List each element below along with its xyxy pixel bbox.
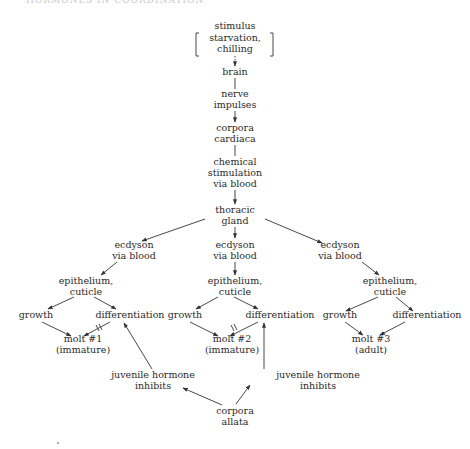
svg-text:ecdyson: ecdyson [114, 239, 153, 250]
svg-text:via blood: via blood [317, 250, 362, 261]
svg-text:molt #3: molt #3 [352, 333, 391, 344]
node-thoracic-gland: thoracic gland [215, 204, 255, 226]
svg-text:growth: growth [168, 309, 202, 320]
node-brain: brain [222, 66, 247, 77]
stray-mark [57, 442, 59, 444]
node-juvenile-hormone-right: juvenile hormone inhibits [275, 369, 360, 391]
svg-text:epithelium,: epithelium, [59, 275, 114, 286]
node-corpora-cardiaca: corpora cardiaca [214, 122, 256, 144]
svg-text:allata: allata [222, 416, 249, 427]
svg-text:via blood: via blood [212, 250, 257, 261]
svg-text:corpora: corpora [216, 122, 254, 133]
svg-text:cardiaca: cardiaca [214, 133, 256, 144]
node-chemical-stimulation: chemical stimulation via blood [208, 156, 262, 189]
arrow-juvenile-left-differentiation [124, 323, 152, 369]
svg-text:chilling: chilling [217, 43, 253, 54]
svg-text:juvenile hormone: juvenile hormone [275, 369, 360, 380]
svg-text:ecdyson: ecdyson [215, 239, 254, 250]
bracket-right [270, 33, 273, 56]
arrow-allata-juvenile-left [183, 388, 222, 405]
svg-text:cuticle: cuticle [374, 286, 407, 297]
svg-text:nerve: nerve [221, 88, 249, 99]
svg-text:differentiation: differentiation [96, 309, 165, 320]
svg-text:gland: gland [222, 215, 249, 226]
svg-text:growth: growth [19, 309, 53, 320]
svg-text:ecdyson: ecdyson [320, 239, 359, 250]
svg-text:corpora: corpora [216, 405, 254, 416]
svg-text:inhibits: inhibits [300, 380, 336, 391]
svg-text:chemical: chemical [213, 156, 256, 167]
svg-text:cuticle: cuticle [70, 286, 103, 297]
svg-text:differentiation: differentiation [246, 309, 315, 320]
svg-text:epithelium,: epithelium, [363, 275, 418, 286]
svg-text:(adult): (adult) [355, 344, 387, 355]
branch-molt-1: ecdyson via blood epithelium, cuticle gr… [19, 239, 165, 355]
node-corpora-allata: corpora allata [216, 405, 254, 427]
svg-text:impulses: impulses [214, 99, 257, 110]
arrow-allata-juvenile-right [236, 385, 250, 404]
svg-text:starvation,: starvation, [209, 32, 261, 43]
node-stimulus: stimulus starvation, chilling [196, 20, 273, 56]
node-juvenile-hormone-left: juvenile hormone inhibits [110, 369, 195, 391]
svg-text:growth: growth [323, 309, 357, 320]
molting-control-diagram: stimulus starvation, chilling brain nerv… [0, 0, 470, 449]
svg-text:(immature): (immature) [205, 344, 259, 355]
svg-text:juvenile hormone: juvenile hormone [110, 369, 195, 380]
svg-text:stimulation: stimulation [208, 167, 262, 178]
svg-text:molt #1: molt #1 [64, 333, 103, 344]
node-nerve-impulses: nerve impulses [214, 88, 257, 110]
svg-text:thoracic: thoracic [215, 204, 255, 215]
svg-text:stimulus: stimulus [215, 20, 256, 31]
svg-text:via blood: via blood [111, 250, 156, 261]
svg-text:epithelium,: epithelium, [208, 275, 263, 286]
svg-text:molt #2: molt #2 [213, 333, 252, 344]
branch-molt-3: ecdyson via blood epithelium, cuticle gr… [317, 239, 461, 355]
arrow-thoracic-ecdyson-1 [142, 219, 205, 241]
svg-text:cuticle: cuticle [219, 286, 252, 297]
svg-text:(immature): (immature) [56, 344, 110, 355]
svg-text:via blood: via blood [212, 178, 257, 189]
svg-text:inhibits: inhibits [135, 380, 171, 391]
bracket-left [196, 33, 199, 56]
svg-text:differentiation: differentiation [393, 309, 462, 320]
branch-molt-2: ecdyson via blood epithelium, cuticle gr… [168, 239, 315, 355]
arrow-thoracic-ecdyson-3 [265, 219, 322, 243]
